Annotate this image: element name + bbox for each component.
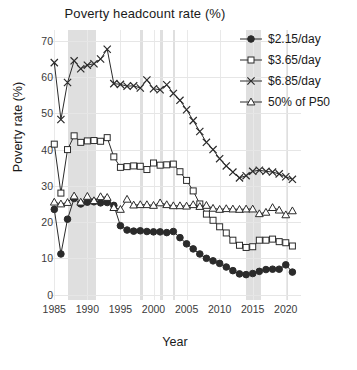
data-point (177, 234, 184, 241)
data-point (196, 128, 203, 135)
data-point (209, 146, 216, 153)
data-point (203, 139, 210, 146)
legend-marker-open-triangle-icon (236, 94, 266, 110)
data-point (163, 229, 170, 236)
data-point (117, 164, 123, 170)
data-point (163, 81, 170, 88)
data-point (229, 168, 236, 175)
data-point (289, 207, 297, 214)
x-tick-label: 2010 (208, 303, 231, 315)
legend: $2.15/day$3.65/day$6.85/day50% of P50 (236, 28, 357, 112)
data-point (184, 177, 190, 183)
data-point (276, 239, 282, 245)
legend-item-4[interactable]: 50% of P50 (236, 91, 357, 112)
data-point (289, 269, 296, 276)
data-point (270, 236, 276, 242)
y-tick-label: 10 (13, 252, 53, 264)
data-point (223, 230, 229, 236)
data-point (176, 97, 183, 104)
data-point (190, 188, 196, 194)
x-tick-label: 2015 (241, 303, 264, 315)
data-point (104, 135, 110, 141)
data-point (77, 65, 84, 72)
data-point (164, 162, 170, 168)
data-point (98, 138, 104, 144)
data-point (203, 202, 211, 209)
data-point (243, 172, 250, 179)
data-point (248, 57, 254, 63)
data-point (71, 133, 77, 139)
data-point (111, 154, 117, 160)
data-point (91, 138, 97, 144)
data-point (151, 160, 157, 166)
data-point (83, 192, 91, 199)
data-point (190, 117, 197, 124)
data-point (230, 237, 236, 243)
data-point (183, 241, 190, 248)
data-point (144, 228, 151, 235)
data-point (71, 57, 78, 64)
data-point (58, 190, 64, 196)
data-point (130, 228, 137, 235)
data-point (124, 227, 131, 234)
legend-marker-open-square-icon (236, 52, 266, 68)
data-point (150, 229, 157, 236)
legend-label: 50% of P50 (266, 95, 330, 109)
data-point (78, 139, 84, 145)
data-point (157, 162, 163, 168)
x-tick-label: 2020 (274, 303, 297, 315)
x-tick-label: 1990 (76, 303, 99, 315)
data-point (156, 199, 164, 206)
data-point (289, 176, 296, 183)
series-line (54, 199, 292, 275)
data-point (243, 244, 249, 250)
data-point (97, 55, 104, 62)
data-point (263, 266, 270, 273)
data-point (210, 258, 217, 265)
data-point (250, 244, 256, 250)
data-point (216, 155, 223, 162)
data-point (177, 169, 183, 175)
x-axis-label: Year (49, 335, 301, 349)
data-point (144, 167, 150, 173)
data-point (143, 76, 150, 83)
data-point (236, 174, 243, 181)
data-point (137, 163, 143, 169)
data-point (189, 201, 197, 208)
legend-marker-cross-icon (236, 73, 266, 89)
data-point (283, 240, 289, 246)
data-point (123, 195, 131, 202)
legend-label: $3.65/day (266, 53, 321, 67)
data-point (263, 237, 269, 243)
y-axis-label: Poverty rate (%) (11, 47, 25, 207)
data-point (65, 147, 71, 153)
data-point (90, 60, 97, 67)
data-point (203, 211, 209, 217)
legend-item-1[interactable]: $2.15/day (236, 28, 357, 49)
data-point (124, 164, 130, 170)
data-point (223, 264, 230, 271)
data-point (58, 251, 65, 258)
data-point (236, 271, 243, 278)
legend-item-3[interactable]: $6.85/day (236, 70, 357, 91)
legend-label: $2.15/day (266, 32, 321, 46)
data-point (243, 271, 250, 278)
data-point (84, 138, 90, 144)
data-point (269, 266, 276, 273)
legend-item-2[interactable]: $3.65/day (236, 49, 357, 70)
data-point (64, 216, 71, 223)
data-point (131, 163, 137, 169)
data-point (203, 255, 210, 262)
legend-label: $6.85/day (266, 74, 321, 88)
data-point (137, 227, 144, 234)
x-tick-label: 1995 (109, 303, 132, 315)
data-point (117, 222, 124, 229)
data-point (256, 268, 263, 275)
data-point (216, 260, 223, 267)
data-point (137, 84, 144, 91)
data-point (170, 90, 177, 97)
data-point (97, 193, 105, 200)
y-tick-label: 0 (13, 289, 53, 301)
data-point (282, 211, 290, 218)
data-point (197, 251, 204, 258)
